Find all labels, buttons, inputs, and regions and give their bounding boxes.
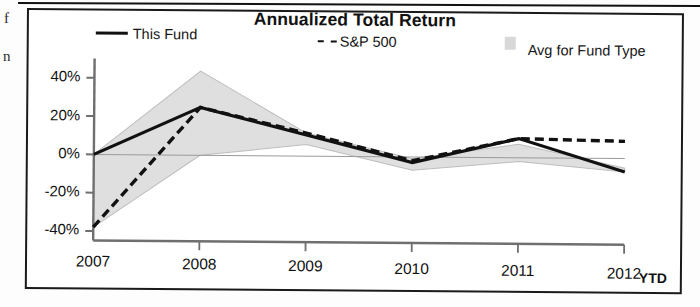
chart-inner-container: Annualized Total Return This Fund S&P 50… xyxy=(0,0,700,307)
x-axis-tick-label-2007: 2007 xyxy=(63,252,123,270)
x-axis-tick-label-2009: 2009 xyxy=(275,257,335,275)
y-axis-tick-label-40: 40% xyxy=(22,67,80,84)
y-axis-tick-label-20: 20% xyxy=(22,106,80,123)
chart-screenshot: f n Annualized Total Return This Fund S&… xyxy=(0,0,700,307)
x-axis-ytd-label: YTD xyxy=(639,270,667,286)
y-axis-tick-label-neg20: -20% xyxy=(21,182,79,199)
x-axis-tick-label-2010: 2010 xyxy=(381,260,441,278)
y-axis-tick-label-neg40: -40% xyxy=(21,220,79,237)
y-axis-tick-label-0: 0% xyxy=(22,144,80,161)
x-axis-tick-label-2008: 2008 xyxy=(169,255,229,273)
x-axis-tick-label-2011: 2011 xyxy=(488,262,548,280)
